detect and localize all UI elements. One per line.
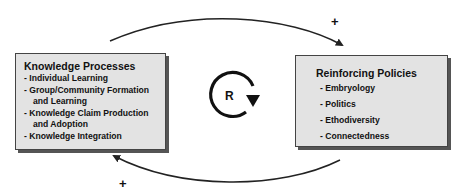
list-item: - Connectedness: [316, 128, 447, 144]
knowledge-processes-box: Knowledge Processes - Individual Learnin…: [15, 53, 166, 150]
bottom-feedback-arrow: [114, 156, 340, 182]
loop-label: R: [225, 89, 234, 103]
list-item: - Knowledge Integration: [24, 131, 165, 143]
list-item: - Embryology: [316, 80, 447, 96]
list-item-continuation: and Adoption: [24, 119, 165, 131]
reinforcing-loop-icon: [211, 72, 260, 116]
list-item: - Ethodiversity: [316, 112, 447, 128]
list-item: - Group/Community Formation: [24, 85, 165, 97]
list-item: - Individual Learning: [24, 73, 165, 85]
bottom-polarity-sign: +: [119, 176, 127, 191]
top-feedback-arrow: [110, 19, 342, 45]
top-polarity-sign: +: [331, 14, 339, 29]
list-item: - Politics: [316, 96, 447, 112]
box-title: Knowledge Processes: [24, 60, 165, 73]
list-item-continuation: and Learning: [24, 96, 165, 108]
reinforcing-policies-box: Reinforcing Policies - Embryology - Poli…: [295, 55, 448, 147]
list-item: - Knowledge Claim Production: [24, 108, 165, 120]
box-title: Reinforcing Policies: [316, 67, 447, 80]
